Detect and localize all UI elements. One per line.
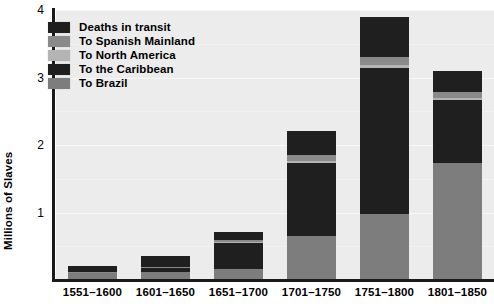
bar-segment — [360, 65, 409, 68]
bar-segment — [287, 131, 336, 155]
bar-segment — [214, 242, 263, 243]
bar-segment — [141, 256, 190, 266]
bar-1801-1850 — [433, 71, 482, 280]
chart-container: Millions of Slaves 1234 1551–16001601–16… — [0, 0, 494, 304]
bar-segment — [68, 272, 117, 273]
bar-segment — [141, 267, 190, 268]
legend-swatch-icon — [48, 50, 70, 61]
y-axis-tick-label: 1 — [0, 207, 44, 219]
bar-segment — [287, 163, 336, 237]
legend-item-label: To the Caribbean — [79, 64, 174, 75]
bar-segment — [433, 163, 482, 280]
bar-segment — [287, 161, 336, 162]
bar-segment — [141, 268, 190, 272]
bar-segment — [214, 232, 263, 240]
legend-item-label: To Brazil — [79, 78, 128, 89]
x-axis-tick-label: 1601–1650 — [126, 286, 206, 298]
x-axis-tick-label: 1801–1850 — [418, 286, 494, 298]
x-axis-tick-label: 1701–1750 — [272, 286, 352, 298]
bar-segment — [433, 71, 482, 91]
bar-segment — [214, 243, 263, 269]
bar-segment — [287, 236, 336, 280]
bar-segment — [433, 100, 482, 162]
bar-1601-1650 — [141, 256, 190, 280]
bar-segment — [360, 17, 409, 56]
y-axis-title: Millions of Slaves — [2, 60, 14, 250]
legend-swatch-icon — [48, 64, 70, 75]
legend-item: To North America — [48, 50, 195, 61]
bar-1551-1600 — [68, 266, 117, 280]
y-axis-tick-label: 2 — [0, 139, 44, 151]
legend-item-label: To Spanish Mainland — [79, 36, 195, 47]
legend-swatch-icon — [48, 36, 70, 47]
y-axis-tick-label: 3 — [0, 72, 44, 84]
bar-1651-1700 — [214, 232, 263, 280]
bar-segment — [360, 68, 409, 214]
legend-item: To the Caribbean — [48, 64, 195, 75]
x-axis-tick-label: 1551–1600 — [53, 286, 133, 298]
legend-item: To Brazil — [48, 78, 195, 89]
legend-swatch-icon — [48, 22, 70, 33]
legend-item-label: Deaths in transit — [79, 22, 171, 33]
x-axis-tick-label: 1751–1800 — [345, 286, 425, 298]
bar-segment — [433, 98, 482, 100]
bar-1751-1800 — [360, 17, 409, 280]
chart-legend: Deaths in transitTo Spanish MainlandTo N… — [48, 22, 195, 89]
legend-item-label: To North America — [79, 50, 176, 61]
bar-segment — [360, 214, 409, 280]
legend-item: To Spanish Mainland — [48, 36, 195, 47]
legend-item: Deaths in transit — [48, 22, 195, 33]
bar-segment — [287, 155, 336, 161]
bar-1701-1750 — [287, 131, 336, 280]
x-axis-tick-label: 1651–1700 — [199, 286, 279, 298]
x-axis-line — [52, 279, 494, 282]
legend-swatch-icon — [48, 78, 70, 89]
bar-segment — [433, 92, 482, 99]
bar-segment — [214, 240, 263, 242]
bar-segment — [68, 266, 117, 272]
bar-segment — [360, 57, 409, 66]
y-axis-tick-label: 4 — [0, 4, 44, 16]
